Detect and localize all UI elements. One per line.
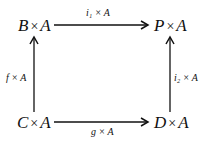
node-factor: A: [176, 16, 186, 35]
node-p-times-a: P×A: [154, 17, 187, 34]
label-i1-times-a: i₁ × A: [86, 8, 110, 18]
node-object: C: [17, 113, 28, 132]
node-object: P: [154, 16, 164, 35]
node-d-times-a: D×A: [154, 114, 189, 131]
node-operator: ×: [30, 116, 38, 131]
arrow-right: [166, 37, 174, 112]
node-factor: A: [40, 16, 50, 35]
label-g-times-a: g × A: [91, 127, 114, 137]
node-factor: A: [40, 113, 50, 132]
arrow-left: [30, 37, 38, 112]
node-factor: A: [178, 113, 188, 132]
node-operator: ×: [30, 19, 38, 34]
node-operator: ×: [168, 116, 176, 131]
node-operator: ×: [166, 19, 174, 34]
label-i2-times-a: i₂ × A: [174, 73, 198, 83]
node-c-times-a: C×A: [17, 114, 51, 131]
label-f-times-a: f × A: [6, 73, 26, 83]
node-object: B: [18, 16, 28, 35]
node-b-times-a: B×A: [18, 17, 51, 34]
arrow-bottom: [54, 118, 148, 126]
arrow-top: [54, 21, 148, 29]
node-object: D: [154, 113, 166, 132]
